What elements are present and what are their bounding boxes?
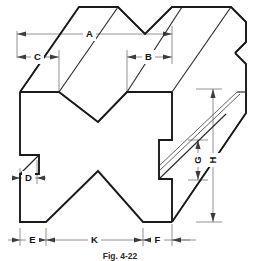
- arrowhead-c-right: [50, 54, 59, 59]
- dimension-label-g: G: [192, 156, 203, 163]
- arrowhead-a-left: [17, 31, 26, 36]
- edge-right-arm-top-diagonal: [172, 7, 231, 92]
- edge-right-slot-lower: [159, 114, 226, 179]
- outline-front-top-notch: [20, 92, 172, 122]
- arrowhead-f-left: [143, 237, 151, 242]
- edge-top-ridge-left: [59, 7, 118, 92]
- object-interior-edges: [20, 7, 246, 222]
- outline-right-slot: [159, 92, 172, 222]
- figure-caption-group: Fig. 4-22: [103, 251, 138, 261]
- dimension-label-k: K: [91, 234, 98, 245]
- outline-left-and-bottom: [20, 92, 172, 222]
- outline-right-silhouette: [172, 53, 246, 222]
- arrowhead-f-right: [172, 237, 181, 242]
- dimension-label-c: C: [34, 51, 41, 62]
- dimension-label-e: E: [29, 234, 35, 245]
- dimension-label-h: H: [207, 156, 218, 163]
- arrowhead-h-top: [210, 89, 215, 98]
- outline-top-silhouette: [20, 7, 246, 92]
- arrowhead-d-right: [37, 175, 45, 180]
- dimension-label-a: A: [86, 28, 93, 39]
- dimension-labels-group: A B C D E F G H K: [22, 27, 220, 247]
- arrowhead-d-left: [12, 175, 20, 180]
- arrowhead-h-bottom: [210, 213, 215, 222]
- dimension-label-d: D: [25, 172, 32, 183]
- figure-container: A B C D E F G H K Fig. 4-22: [0, 0, 257, 261]
- arrowhead-b-left: [127, 54, 136, 59]
- arrowhead-c-left: [17, 54, 26, 59]
- dimension-label-b: B: [145, 51, 152, 62]
- arrowhead-g-bottom: [195, 171, 200, 180]
- figure-caption: Fig. 4-22: [103, 251, 138, 261]
- dimension-label-f: F: [155, 234, 161, 245]
- arrowhead-b-right: [163, 54, 172, 59]
- edge-top-ridge-right: [127, 7, 182, 92]
- arrowhead-e-right: [38, 237, 46, 242]
- isometric-drawing-canvas: A B C D E F G H K Fig. 4-22: [0, 0, 257, 261]
- arrowhead-e-left: [12, 237, 20, 242]
- arrowhead-k-right: [134, 237, 143, 242]
- arrowhead-k-left: [46, 237, 55, 242]
- object-outline: [20, 7, 246, 222]
